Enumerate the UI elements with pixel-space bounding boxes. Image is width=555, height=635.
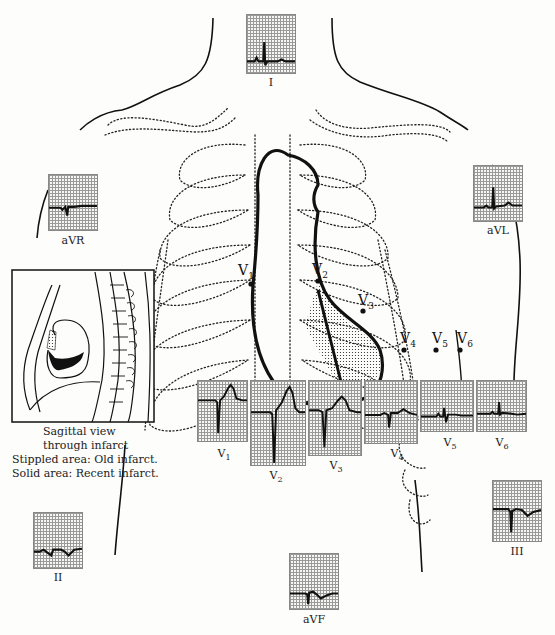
electrode-label-v2: V2: [312, 261, 328, 280]
lead-label-v6: V6: [490, 436, 514, 451]
lead-label-iii: III: [506, 545, 528, 558]
inset-caption-line2: through infarct: [43, 439, 128, 453]
sagittal-inset: [12, 270, 154, 422]
ecg-strip-lead-v3: [308, 380, 362, 456]
ecg-diagram: I aVR aVL V1 V2 V3 V4 V5 V6 II aVF III V: [0, 0, 555, 635]
lead-label-v3: V3: [324, 459, 348, 474]
ecg-strip-lead-v4: [364, 380, 418, 444]
lead-label-v4: V4: [385, 447, 409, 462]
lead-label-v2: V2: [264, 469, 288, 484]
legend-stippled-area: Stippled area: Old infarct.: [12, 453, 158, 467]
ecg-strip-lead-v2: [250, 380, 306, 466]
lead-label-i: I: [261, 76, 281, 89]
ecg-strip-lead-avr: [48, 174, 98, 231]
electrode-label-v5: V5: [432, 330, 448, 349]
electrode-label-v1: V1: [238, 262, 254, 281]
electrode-v1-dot: [248, 281, 253, 286]
thorax-illustration: [0, 0, 555, 635]
inset-caption-line1: Sagittal view: [43, 425, 116, 439]
legend-solid-area: Solid area: Recent infarct.: [12, 467, 159, 481]
lead-label-ii: II: [48, 571, 68, 584]
ecg-strip-lead-iii: [492, 480, 542, 542]
ecg-strip-lead-avf: [289, 553, 339, 610]
electrode-label-v4: V4: [400, 330, 416, 349]
lead-label-v5: V5: [438, 436, 462, 451]
lead-label-avf: aVF: [296, 613, 332, 626]
ecg-strip-lead-i: [246, 14, 296, 74]
ecg-strip-lead-v6: [476, 380, 527, 432]
ecg-strip-lead-ii: [33, 512, 83, 569]
lead-label-avr: aVR: [56, 234, 90, 247]
lead-label-v1: V1: [212, 447, 236, 462]
ecg-strip-lead-avl: [473, 165, 523, 222]
electrode-label-v6: V6: [457, 330, 473, 349]
ecg-strip-lead-v1: [197, 380, 248, 442]
lead-label-avl: aVL: [480, 224, 516, 237]
ecg-strip-lead-v5: [420, 380, 474, 432]
electrode-label-v3: V3: [358, 292, 374, 311]
